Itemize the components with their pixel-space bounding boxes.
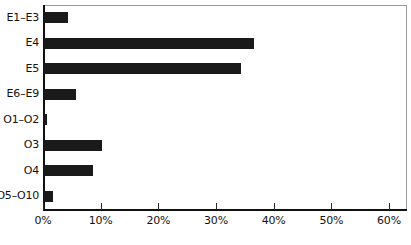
x-tick-label: 30% [204,214,228,227]
y-axis-category-label: O4 [24,164,39,177]
y-axis-category-label: E6–E9 [7,87,39,100]
bar [44,12,68,23]
y-axis-category-label: O3 [24,138,39,151]
y-axis-line [43,5,45,211]
x-axis-line [43,209,407,211]
y-axis-category-label: E4 [25,36,39,49]
bar-chart: 0%10%20%30%40%50%60% E1–E3E4E5E6–E9O1–O2… [0,0,411,245]
x-tick-mark [331,203,332,210]
bar [44,140,102,151]
y-axis-category-label: O1–O2 [3,113,39,126]
x-tick-label: 60% [377,214,401,227]
x-tick-mark [101,203,102,210]
y-axis-category-label: E5 [25,62,39,75]
bar [44,165,93,176]
bar [44,63,241,74]
bar [44,38,254,49]
x-tick-label: 20% [146,214,170,227]
bar [44,191,53,202]
y-axis-category-label: O5–O10 [0,189,39,202]
x-tick-mark [158,203,159,210]
bar [44,89,76,100]
x-tick-label: 0% [34,214,51,227]
x-tick-label: 50% [319,214,343,227]
plot-area-frame [43,5,407,210]
x-tick-mark [274,203,275,210]
x-tick-mark [216,203,217,210]
bar [44,114,47,125]
x-tick-label: 40% [262,214,286,227]
x-tick-mark [389,203,390,210]
x-tick-mark [43,203,44,210]
x-tick-label: 10% [89,214,113,227]
y-axis-category-label: E1–E3 [7,11,39,24]
